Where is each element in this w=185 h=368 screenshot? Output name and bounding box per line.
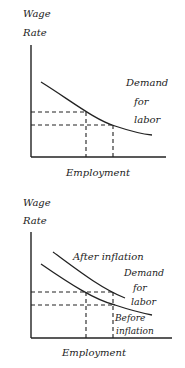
y-axis-label-line2: Rate (22, 27, 47, 38)
before-inflation-label-line2: inflation (116, 326, 154, 336)
top-diagram: Wage Rate Demand for labor Employment (22, 8, 168, 178)
curve-label-line1: Demand (123, 267, 164, 278)
bottom-diagram: Wage Rate After inflation Demand for lab… (22, 197, 172, 358)
after-inflation-label: After inflation (72, 251, 144, 262)
y-axis-label-line1: Wage (23, 197, 51, 208)
curve-label-line2: for (133, 96, 150, 107)
curve-label-line3: labor (131, 296, 158, 307)
curve-label-line2: for (132, 282, 148, 293)
x-axis-label: Employment (61, 347, 127, 358)
y-axis-label-line1: Wage (23, 8, 51, 19)
demand-curve (41, 82, 152, 135)
curve-label-line1: Demand (125, 77, 168, 88)
y-axis-label-line2: Rate (22, 215, 47, 226)
before-inflation-label-line1: Before (114, 313, 145, 323)
x-axis-label: Employment (65, 167, 131, 178)
curve-label-line3: labor (134, 114, 162, 125)
diagram-canvas: Wage Rate Demand for labor Employment Wa… (0, 0, 185, 368)
